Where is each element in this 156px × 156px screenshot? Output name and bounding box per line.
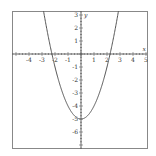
y-tick-label: 1 bbox=[74, 37, 78, 44]
x-tick-label: 3 bbox=[118, 56, 122, 63]
y-tick-label: -2 bbox=[72, 76, 78, 83]
y-axis-label: y bbox=[83, 11, 88, 19]
x-tick-label: -3 bbox=[39, 56, 45, 63]
x-tick-label: -4 bbox=[26, 56, 32, 63]
y-tick-label: -4 bbox=[72, 102, 78, 109]
y-tick-label: -3 bbox=[72, 89, 78, 96]
x-tick-label: -1 bbox=[65, 56, 71, 63]
x-axis-label: x bbox=[143, 45, 147, 52]
parabola-chart: -4-3-2-112345321-1-2-3-4-5-6xy bbox=[0, 0, 156, 156]
y-tick-label: 3 bbox=[74, 11, 78, 18]
y-tick-label: -1 bbox=[72, 63, 78, 70]
y-tick-label: 2 bbox=[74, 24, 78, 31]
y-tick-label: -6 bbox=[72, 128, 78, 135]
x-tick-label: 5 bbox=[144, 56, 148, 63]
x-tick-label: 4 bbox=[131, 56, 135, 63]
x-tick-label: 1 bbox=[92, 56, 96, 63]
